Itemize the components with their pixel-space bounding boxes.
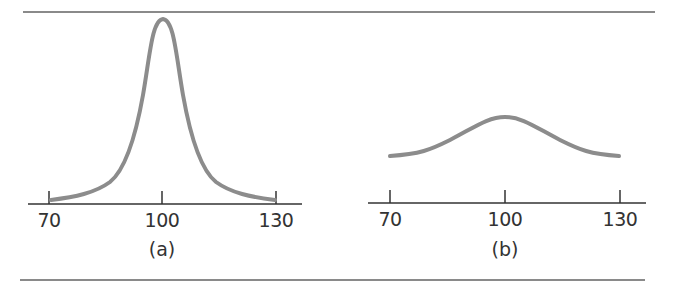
panel-b-label: (b) [492, 240, 519, 259]
panel-b-tick-label-100: 100 [488, 210, 523, 229]
panel-a-curve [51, 19, 275, 200]
panel-a-tick-label-130: 130 [259, 211, 294, 230]
panel-b-tick-label-70: 70 [378, 210, 401, 229]
figure-canvas [0, 0, 673, 307]
panel-a-chart [28, 19, 302, 204]
panel-b-curve [390, 117, 619, 156]
panel-a-tick-label-70: 70 [37, 211, 60, 230]
panel-b-chart [368, 117, 646, 203]
panel-b-tick-label-130: 130 [603, 210, 638, 229]
panel-a-label: (a) [149, 240, 175, 259]
panel-a-tick-label-100: 100 [145, 211, 180, 230]
